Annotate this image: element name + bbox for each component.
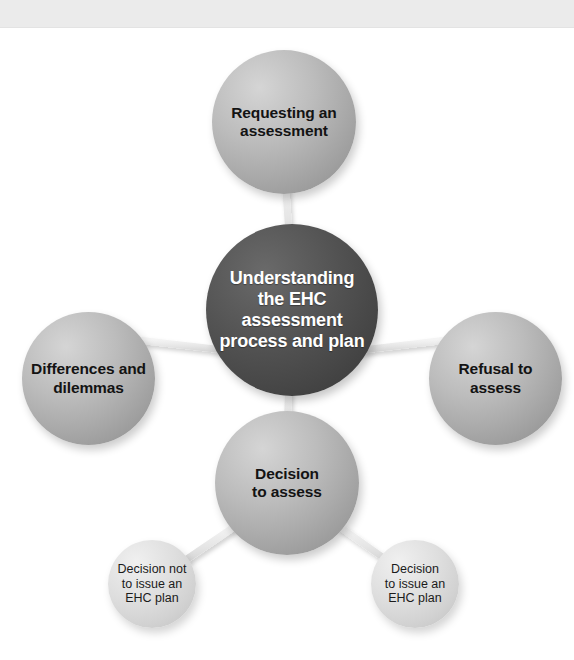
node-label: Requesting an assessment bbox=[222, 104, 346, 141]
node-label: Decision to issue an EHC plan bbox=[376, 562, 454, 606]
node-label: Understanding the EHC assessment process… bbox=[216, 268, 368, 353]
node-decision-to-assess[interactable]: Decision to assess bbox=[215, 411, 359, 555]
node-label: Differences and dilemmas bbox=[29, 360, 149, 397]
node-label: Decision not to issue an EHC plan bbox=[113, 562, 191, 606]
diagram-canvas: Requesting an assessment Differences and… bbox=[0, 0, 574, 660]
node-requesting-an-assessment[interactable]: Requesting an assessment bbox=[212, 50, 356, 194]
edge-decision-to-noplan bbox=[184, 527, 234, 561]
node-decision-to-issue-an-ehc-plan[interactable]: Decision to issue an EHC plan bbox=[371, 540, 459, 628]
node-label: Refusal to assess bbox=[440, 360, 552, 397]
node-refusal-to-assess[interactable]: Refusal to assess bbox=[429, 312, 562, 445]
node-decision-not-to-issue-an-ehc-plan[interactable]: Decision not to issue an EHC plan bbox=[108, 540, 196, 628]
node-differences-and-dilemmas[interactable]: Differences and dilemmas bbox=[22, 312, 155, 445]
node-understanding-the-ehc-assessment-process-and-plan[interactable]: Understanding the EHC assessment process… bbox=[206, 224, 378, 396]
header-band bbox=[0, 0, 574, 28]
node-label: Decision to assess bbox=[228, 465, 346, 502]
